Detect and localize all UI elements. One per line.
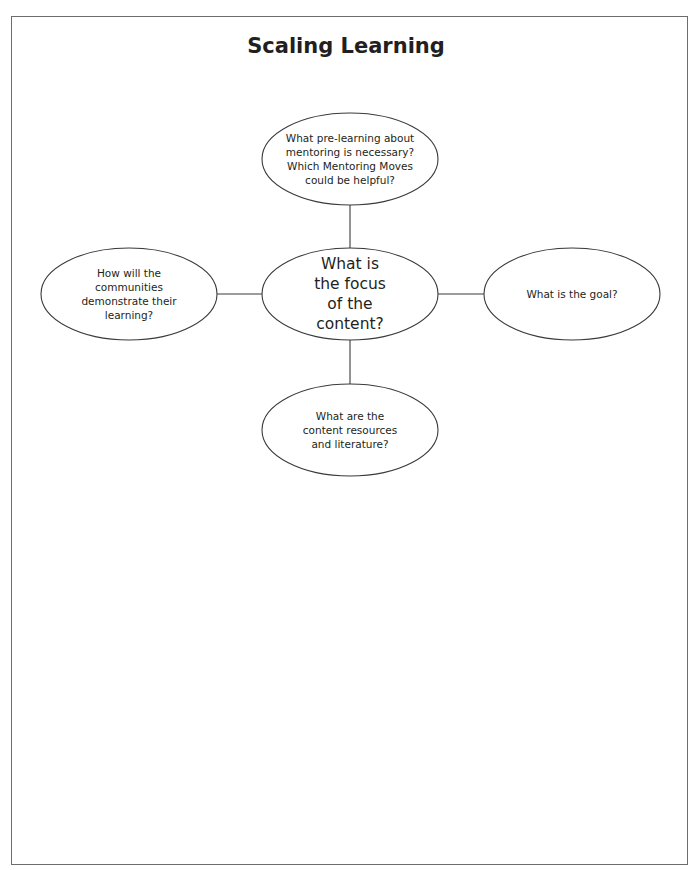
node-right: What is the goal? [484,248,660,340]
node-left-label: How will the communities demonstrate the… [81,266,176,322]
node-bottom-label: What are the content resources and liter… [303,409,397,451]
node-bottom: What are the content resources and liter… [262,384,438,476]
node-left: How will the communities demonstrate the… [41,248,217,340]
node-center: What is the focus of the content? [262,248,438,340]
node-top-label: What pre-learning about mentoring is nec… [286,131,414,187]
node-center-label: What is the focus of the content? [314,254,386,334]
node-right-label: What is the goal? [526,287,617,301]
node-top: What pre-learning about mentoring is nec… [262,113,438,205]
